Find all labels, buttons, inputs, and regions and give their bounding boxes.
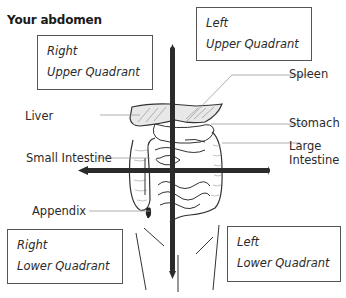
liver-shape	[130, 104, 222, 126]
quadrant-box-right-upper: Right Upper Quadrant	[37, 35, 153, 90]
label-large-intestine-line2: Intestine	[289, 154, 339, 167]
label-stomach: Stomach	[289, 117, 340, 130]
quadrant-label-name: Upper Quadrant	[206, 34, 311, 55]
label-spleen: Spleen	[289, 68, 328, 81]
quadrant-label-side: Right	[17, 235, 122, 256]
quadrant-box-left-lower: Left Lower Quadrant	[227, 226, 341, 282]
quadrant-box-right-lower: Right Lower Quadrant	[7, 229, 123, 284]
leader-lines	[89, 75, 308, 211]
label-large-intestine-line1: Large	[289, 140, 321, 153]
quadrant-label-name: Upper Quadrant	[47, 62, 152, 83]
label-liver: Liver	[25, 110, 53, 123]
quadrant-label-side: Left	[237, 232, 340, 253]
small-intestine-shape	[145, 139, 210, 208]
quadrant-label-side: Right	[47, 41, 152, 62]
label-appendix: Appendix	[32, 205, 86, 218]
label-small-intestine: Small Intestine	[26, 152, 112, 165]
body-outline	[136, 225, 219, 292]
quadrant-label-name: Lower Quadrant	[17, 256, 122, 277]
quadrant-label-name: Lower Quadrant	[237, 253, 340, 274]
quadrant-label-side: Left	[206, 13, 311, 34]
quadrant-box-left-upper: Left Upper Quadrant	[196, 7, 312, 61]
